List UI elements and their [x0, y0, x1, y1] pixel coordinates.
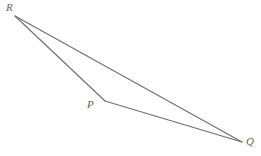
geometry-figure-canvas: R P Q	[0, 0, 261, 156]
figure-background	[0, 0, 261, 156]
vertex-label-r: R	[6, 2, 13, 13]
triangle-drawing	[0, 0, 261, 156]
vertex-label-p: P	[87, 99, 94, 110]
vertex-label-q: Q	[246, 136, 254, 147]
